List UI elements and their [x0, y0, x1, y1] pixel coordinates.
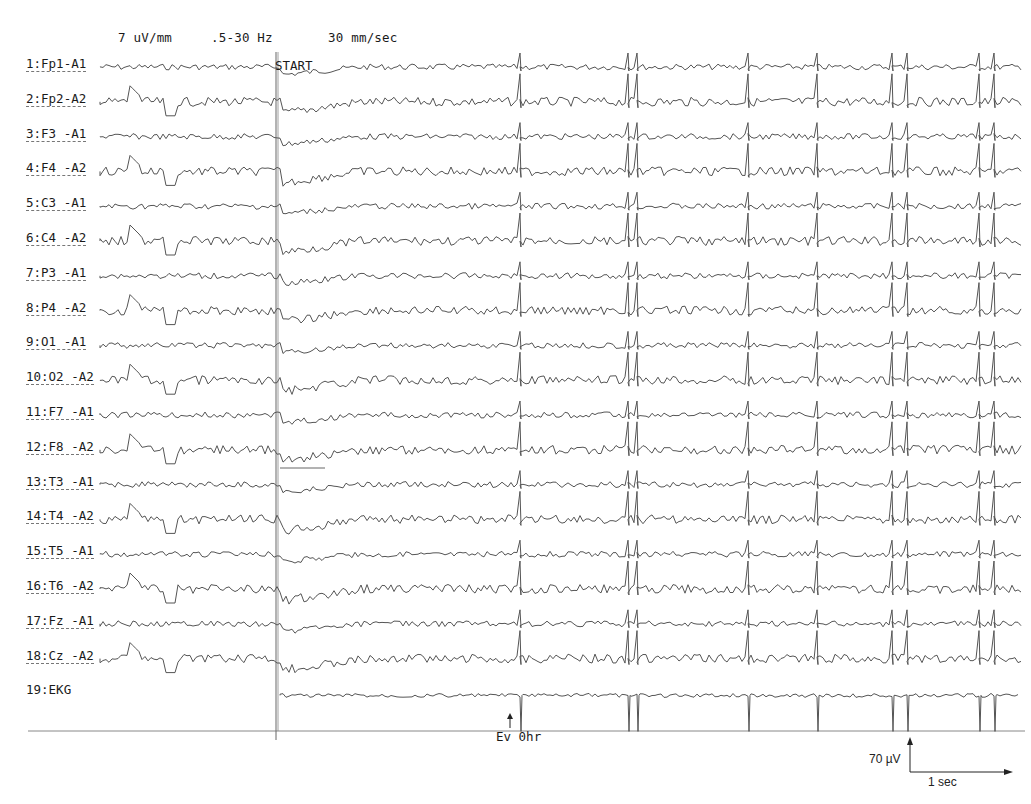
calibration-amplitude-label: 70 µV: [869, 752, 901, 766]
trace-channel-15: [100, 540, 1021, 563]
trace-channel-7: [100, 262, 1021, 286]
trace-channel-10: [100, 352, 1021, 394]
trace-channel-6: [100, 213, 1021, 255]
start-marker-label: START: [275, 58, 313, 73]
trace-channel-13: [100, 471, 1021, 493]
trace-channel-4: [100, 143, 1021, 186]
eeg-traces: [0, 0, 1031, 804]
trace-channel-16: [100, 561, 1021, 604]
trace-channel-3: [100, 123, 1021, 146]
trace-channel-8: [100, 283, 1021, 325]
trace-channel-18: [100, 631, 1021, 673]
trace-channel-17: [100, 610, 1021, 633]
trace-channel-5: [100, 192, 1021, 214]
trace-channel-11: [100, 401, 1021, 424]
trace-channel-12: [100, 422, 1021, 464]
trace-channel-9: [100, 331, 1021, 353]
trace-channel-1: [100, 53, 1021, 76]
trace-channel-2: [100, 74, 1021, 116]
event-arrow-icon: [507, 713, 513, 728]
trace-ekg: [280, 693, 1018, 731]
trace-channel-14: [100, 491, 1021, 534]
event-marker-label: Ev 0hr: [496, 729, 541, 744]
calibration-time-label: 1 sec: [928, 775, 957, 789]
calibration-bar-icon: [907, 737, 1013, 775]
